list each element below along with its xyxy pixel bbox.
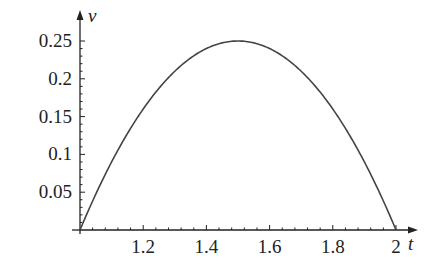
y-tick-label: 0.15 [39,106,72,127]
x-tick-label: 2 [391,236,401,257]
curve-v-of-t [80,41,396,230]
y-axis-label: v [88,5,97,26]
plot-area: 1.21.41.61.820.050.10.150.20.25tv [39,5,418,257]
chart: 1.21.41.61.820.050.10.150.20.25tv [0,0,443,265]
x-tick-label: 1.8 [321,236,345,257]
y-tick-label: 0.2 [48,68,72,89]
y-tick-label: 0.1 [48,143,72,164]
y-tick-label: 0.25 [39,30,72,51]
y-axis-arrow-icon [77,10,84,20]
x-tick-label: 1.4 [195,236,219,257]
y-tick-label: 0.05 [39,181,72,202]
x-axis-label: t [408,233,414,254]
x-tick-label: 1.6 [258,236,282,257]
x-tick-label: 1.2 [131,236,155,257]
